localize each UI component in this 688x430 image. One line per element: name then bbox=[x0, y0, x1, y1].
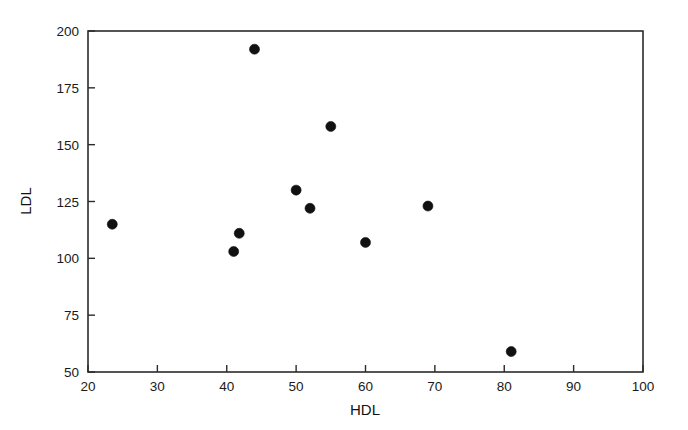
x-axis-title: HDL bbox=[350, 401, 380, 418]
data-point bbox=[326, 121, 336, 131]
data-point bbox=[361, 237, 371, 247]
x-tick-label: 40 bbox=[219, 379, 234, 394]
scatter-chart: 2030405060708090100 5075100125150175200 … bbox=[0, 0, 688, 430]
y-axis-title: LDL bbox=[17, 187, 34, 215]
y-tick-label: 75 bbox=[64, 308, 79, 323]
data-point bbox=[423, 201, 433, 211]
y-tick-label: 125 bbox=[56, 195, 79, 210]
x-tick-label: 30 bbox=[150, 379, 165, 394]
chart-canvas: 2030405060708090100 5075100125150175200 … bbox=[0, 0, 688, 430]
x-tick-label: 100 bbox=[632, 379, 655, 394]
y-tick-label: 150 bbox=[56, 138, 79, 153]
y-tick-label: 200 bbox=[56, 24, 79, 39]
x-axis-ticks: 2030405060708090100 bbox=[80, 365, 654, 394]
data-point bbox=[250, 44, 260, 54]
y-axis-ticks: 5075100125150175200 bbox=[56, 24, 95, 380]
x-tick-label: 70 bbox=[427, 379, 442, 394]
x-tick-label: 20 bbox=[80, 379, 95, 394]
x-tick-label: 90 bbox=[566, 379, 581, 394]
y-tick-label: 175 bbox=[56, 81, 79, 96]
x-tick-label: 80 bbox=[497, 379, 512, 394]
x-tick-label: 50 bbox=[289, 379, 304, 394]
data-points-layer bbox=[107, 44, 516, 356]
y-tick-label: 100 bbox=[56, 251, 79, 266]
data-point bbox=[305, 203, 315, 213]
data-point bbox=[506, 347, 516, 357]
data-point bbox=[107, 219, 117, 229]
plot-frame-rect bbox=[88, 31, 643, 372]
y-tick-label: 50 bbox=[64, 365, 79, 380]
data-point bbox=[234, 228, 244, 238]
plot-frame bbox=[88, 31, 643, 372]
data-point bbox=[229, 247, 239, 257]
x-tick-label: 60 bbox=[358, 379, 373, 394]
data-point bbox=[291, 185, 301, 195]
